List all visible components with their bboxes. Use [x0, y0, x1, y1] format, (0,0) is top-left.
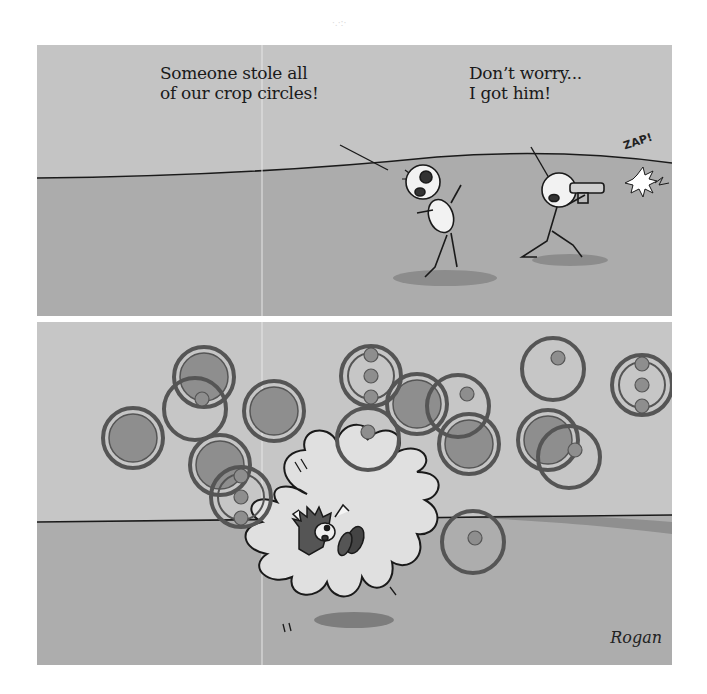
panel-bottom-art	[37, 322, 672, 665]
crop-circle	[341, 346, 401, 406]
speech-text-someone-stole: Someone stole all of our crop circles!	[160, 63, 318, 103]
crop-circle	[103, 408, 163, 468]
speech-text-dont-worry: Don’t worry... I got him!	[469, 63, 582, 103]
print-smudge: ·.·:·	[332, 18, 366, 32]
crop-circle	[518, 410, 578, 470]
crop-circle	[244, 381, 304, 441]
crop-circle	[522, 338, 584, 400]
comic-panel-top: Someone stole all of our crop circles! D…	[37, 45, 672, 316]
comic-panel-bottom: Rogan	[37, 322, 672, 665]
crop-circle	[439, 414, 499, 474]
crop-circle	[612, 355, 672, 415]
artist-signature: Rogan	[610, 628, 662, 647]
